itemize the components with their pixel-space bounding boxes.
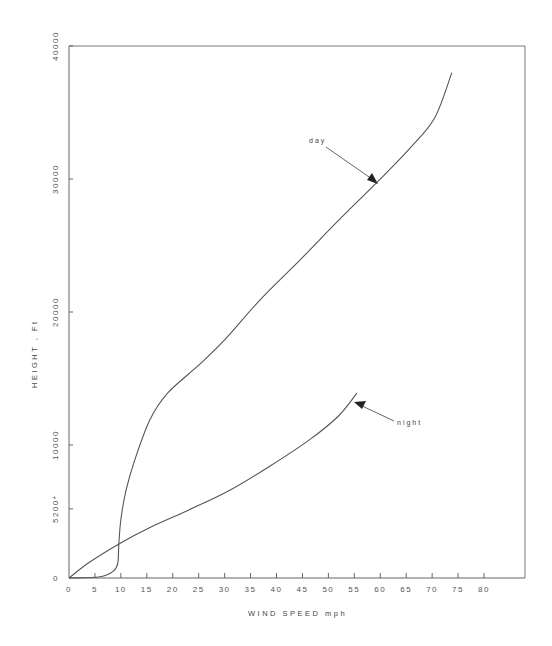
y-tick-label: 20000 [51,297,60,327]
night-arrow-icon [354,401,366,409]
y-axis-ticks: 05200*10000200003000040000 [51,31,73,583]
x-tick-label: 10 [115,585,127,594]
x-tick-label: 15 [141,585,153,594]
annotation-night: night [354,401,422,427]
y-tick-label: 10000 [51,430,60,460]
y-tick-label: 30000 [51,164,60,194]
night-label: night [397,419,422,427]
plot-frame [69,46,525,578]
x-tick-label: 70 [426,585,438,594]
x-tick-label: 50 [322,585,334,594]
y-tick-label: 40000 [51,31,60,61]
x-axis-ticks: 05101520253035404550556065707580 [66,573,490,594]
x-tick-label: 25 [193,585,205,594]
annotation-day: day [309,137,378,184]
wind-speed-height-chart: 05101520253035404550556065707580 05200*1… [0,0,552,646]
x-axis-title: WIND SPEED mph [248,609,347,618]
x-tick-label: 80 [478,585,490,594]
curves [69,73,452,578]
x-tick-label: 65 [400,585,412,594]
x-tick-label: 35 [245,585,257,594]
y-axis-title: HEIGHT , Ft [30,319,39,388]
x-tick-label: 75 [452,585,464,594]
x-tick-label: 45 [296,585,308,594]
x-tick-label: 60 [374,585,386,594]
y-tick-label: 0 [53,574,59,583]
y-tick-label: 5200* [51,495,60,523]
x-tick-label: 0 [66,585,72,594]
x-tick-label: 40 [271,585,283,594]
x-tick-label: 30 [219,585,231,594]
x-tick-label: 5 [92,585,98,594]
day-curve [69,73,452,578]
day-label: day [309,137,326,145]
x-tick-label: 20 [167,585,179,594]
day-arrow-icon [367,173,378,184]
night-curve [69,393,357,578]
x-tick-label: 55 [348,585,360,594]
